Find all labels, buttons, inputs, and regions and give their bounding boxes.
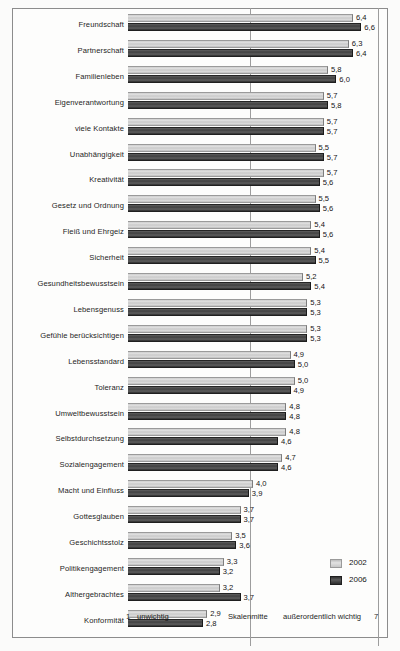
bar-2006 — [128, 334, 307, 342]
legend: 2002 2006 — [330, 556, 388, 590]
bar-2006 — [128, 308, 307, 316]
bar-2006 — [128, 101, 328, 109]
chart-row: Gesetz und Ordnung5,55,6 — [0, 193, 400, 219]
axis-min-label: unwichtig — [137, 612, 169, 621]
category-label: Gottesglauben — [16, 508, 124, 526]
value-label-2002: 5,8 — [331, 65, 342, 74]
axis-max-label: außerordentlich wichtig — [283, 612, 361, 621]
bar-2006 — [128, 204, 320, 212]
chart-row: Toleranz5,04,9 — [0, 375, 400, 401]
value-label-2006: 3,7 — [244, 515, 255, 524]
bar-2006 — [128, 386, 291, 394]
bar-2006 — [128, 593, 241, 601]
value-label-2006: 5,6 — [323, 204, 334, 213]
category-label: Gesundheitsbewusstsein — [16, 275, 124, 293]
bar-2006 — [128, 127, 324, 135]
category-label: Macht und Einfluss — [16, 482, 124, 500]
bar-2006 — [128, 178, 320, 186]
value-label-2006: 5,8 — [331, 101, 342, 110]
bar-2002 — [128, 92, 324, 100]
value-label-2002: 3,3 — [227, 557, 238, 566]
gridline-right-tick — [378, 638, 379, 646]
bar-2002 — [128, 377, 295, 385]
chart-row: Sicherheit5,45,5 — [0, 245, 400, 271]
bar-2006 — [128, 412, 286, 420]
gridline-mid-tick — [250, 638, 251, 646]
category-label: Gefühle berücksichtigen — [16, 327, 124, 345]
legend-item-2002: 2002 — [330, 556, 388, 573]
chart-row: Sozialengagement4,74,6 — [0, 452, 400, 478]
axis-min-tick: 1 — [126, 612, 130, 621]
bar-2002 — [128, 195, 316, 203]
category-label: Partnerschaft — [16, 42, 124, 60]
bar-2006 — [128, 75, 336, 83]
value-label-2002: 5,2 — [306, 272, 317, 281]
value-label-2006: 3,2 — [223, 567, 234, 576]
bar-2006 — [128, 515, 241, 523]
value-label-2006: 4,8 — [289, 412, 300, 421]
bar-2006 — [128, 541, 236, 549]
value-label-2002: 4,9 — [294, 350, 305, 359]
value-label-2006: 5,3 — [310, 334, 321, 343]
bar-2006 — [128, 256, 316, 264]
value-label-2006: 5,4 — [314, 282, 325, 291]
bar-2002 — [128, 273, 303, 281]
category-label: Eigenverantwortung — [16, 94, 124, 112]
chart-row: Gottesglauben3,73,7 — [0, 504, 400, 530]
legend-item-2006: 2006 — [330, 573, 388, 590]
value-label-2002: 6,4 — [356, 13, 367, 22]
bar-2006 — [128, 360, 295, 368]
value-label-2006: 3,6 — [239, 541, 250, 550]
value-label-2002: 6,3 — [352, 39, 363, 48]
bar-2006 — [128, 282, 311, 290]
value-label-2006: 5,6 — [323, 178, 334, 187]
chart-row: Kreativität5,75,6 — [0, 167, 400, 193]
category-label: Geschichtsstolz — [16, 534, 124, 552]
bar-2002 — [128, 169, 324, 177]
legend-swatch-2006 — [330, 576, 342, 585]
category-label: Umweltbewusstsein — [16, 405, 124, 423]
value-label-2006: 5,7 — [327, 127, 338, 136]
value-label-2006: 3,9 — [252, 489, 263, 498]
value-label-2002: 5,3 — [310, 324, 321, 333]
bar-2006 — [128, 49, 353, 57]
value-label-2002: 3,2 — [223, 583, 234, 592]
chart-row: Lebensstandard4,95,0 — [0, 349, 400, 375]
bar-2006 — [128, 463, 278, 471]
legend-label-2002: 2002 — [349, 558, 367, 567]
category-label: Politikengagement — [16, 560, 124, 578]
value-label-2002: 3,7 — [244, 505, 255, 514]
chart-row: Familienleben5,86,0 — [0, 64, 400, 90]
bar-2002 — [128, 532, 232, 540]
chart-row: Macht und Einfluss4,03,9 — [0, 478, 400, 504]
value-label-2002: 5,7 — [327, 117, 338, 126]
bar-2002 — [128, 221, 311, 229]
value-label-2002: 4,0 — [256, 479, 267, 488]
chart-row: Gefühle berücksichtigen5,35,3 — [0, 323, 400, 349]
bar-2002 — [128, 325, 307, 333]
category-label: Selbstdurchsetzung — [16, 430, 124, 448]
bar-2002 — [128, 247, 311, 255]
value-label-2006: 4,6 — [281, 463, 292, 472]
value-label-2002: 4,8 — [289, 427, 300, 436]
legend-label-2006: 2006 — [349, 575, 367, 584]
bar-2002 — [128, 144, 316, 152]
category-label: Kreativität — [16, 171, 124, 189]
legend-swatch-2002 — [330, 559, 342, 568]
axis-caption: 1 unwichtig Skalenmitte außerordentlich … — [0, 612, 400, 628]
bar-2002 — [128, 40, 349, 48]
chart-row: Unabhängigkeit5,55,7 — [0, 142, 400, 168]
category-label: Althergebrachtes — [16, 586, 124, 604]
bar-2002 — [128, 558, 224, 566]
value-label-2006: 6,6 — [364, 23, 375, 32]
value-label-2006: 5,0 — [298, 360, 309, 369]
bar-2002 — [128, 14, 353, 22]
bar-2002 — [128, 118, 324, 126]
category-label: Sicherheit — [16, 249, 124, 267]
bar-2002 — [128, 480, 253, 488]
category-label: Freundschaft — [16, 16, 124, 34]
bar-2006 — [128, 437, 278, 445]
category-label: Lebensgenuss — [16, 301, 124, 319]
value-label-2006: 5,5 — [319, 256, 330, 265]
value-label-2006: 6,4 — [356, 49, 367, 58]
